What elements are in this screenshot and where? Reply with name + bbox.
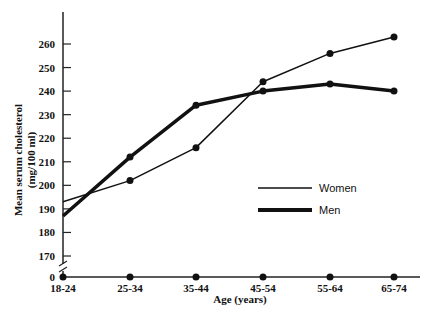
y-axis-title-line1: Mean serum cholesterol	[12, 104, 24, 216]
x-tick-label: 55-64	[317, 282, 343, 294]
data-point	[260, 78, 267, 85]
x-tick-dot	[260, 274, 267, 281]
data-point	[127, 177, 134, 184]
y-tick-label: 260	[39, 38, 56, 50]
x-tick-label: 18-24	[50, 282, 76, 294]
data-point	[193, 144, 200, 151]
data-point	[391, 33, 398, 40]
x-tick-label: 35-44	[183, 282, 209, 294]
x-tick-label: 25-34	[117, 282, 143, 294]
x-tick-dot	[391, 274, 398, 281]
y-tick-label: 190	[39, 203, 56, 215]
x-tick-label: 65-74	[381, 282, 407, 294]
y-tick-label: 200	[39, 179, 56, 191]
data-point	[260, 88, 267, 95]
data-point	[127, 154, 134, 161]
y-tick-label: 230	[39, 109, 56, 121]
data-point	[193, 102, 200, 109]
y-tick-label: 170	[39, 250, 56, 262]
x-tick-dot	[193, 274, 200, 281]
y-tick-label: 250	[39, 62, 56, 74]
legend-label-women: Women	[319, 182, 357, 194]
data-point	[391, 88, 398, 95]
x-tick-dot	[127, 274, 134, 281]
y-axis: 0170180190200210220230240250260	[39, 12, 72, 283]
series-line-women	[63, 37, 394, 202]
cholesterol-line-chart: 0170180190200210220230240250260 18-2425-…	[0, 0, 431, 320]
series-line-men	[63, 84, 394, 216]
x-axis-title: Age (years)	[213, 293, 267, 306]
x-axis: 18-2425-3435-4445-5455-6465-74	[50, 274, 420, 295]
y-tick-label: 240	[39, 85, 56, 97]
data-point	[327, 81, 334, 88]
data-point	[327, 50, 334, 57]
x-tick-dot	[60, 274, 67, 281]
legend: WomenMen	[258, 182, 357, 216]
y-axis-title-line2: (mg/100 ml)	[25, 131, 38, 188]
y-tick-label: 210	[39, 156, 56, 168]
legend-label-men: Men	[319, 204, 340, 216]
y-tick-label: 220	[39, 132, 56, 144]
x-tick-dot	[327, 274, 334, 281]
y-tick-label: 180	[39, 226, 56, 238]
